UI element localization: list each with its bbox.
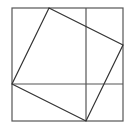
pythagorean-diagram	[0, 0, 130, 130]
outer-square	[12, 8, 123, 121]
tilted-inner-square	[12, 8, 123, 121]
